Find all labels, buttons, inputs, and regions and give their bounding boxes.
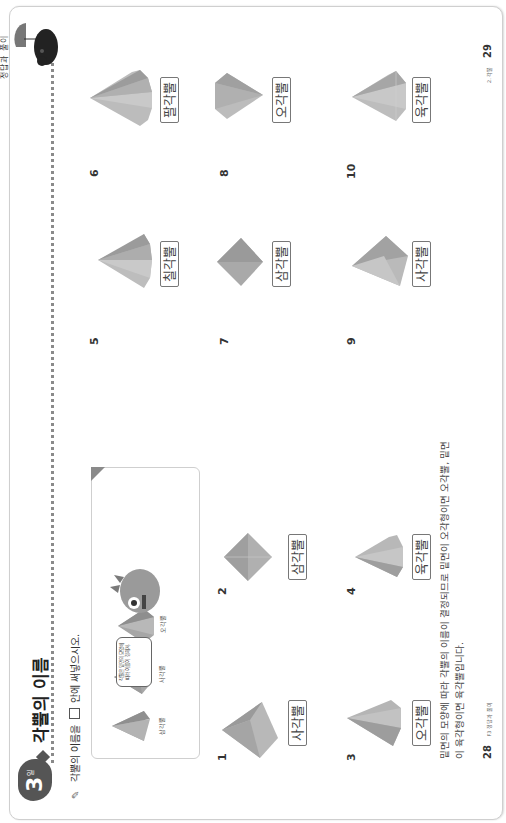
day-badge: 3 일 [18, 759, 52, 801]
explanation-line: 이 육각형이면 육각뿔입니다. [452, 119, 467, 759]
workbook-spread: 정답과 풀이 3 일 각뿔의 이름 ✎ 각뿔의 이름을 안에 써넣으시오. 삼각… [0, 0, 506, 823]
answer-box: 사각뿔 [288, 700, 307, 746]
explanation-text: 밑면의 모양에 따라 각뿔의 이름이 결정되므로 밑면이 오각형이면 오각뿔, … [437, 119, 467, 759]
triangular-pyramid-figure [215, 236, 265, 288]
example-label: 사각뿔 [157, 665, 166, 683]
question-number: 10 [345, 164, 358, 179]
instruction-text-before: 각뿔의 이름을 [70, 725, 81, 782]
footer-left: 28 F3 정답과 풀이 [482, 702, 493, 759]
question-number: 2 [216, 587, 229, 595]
answer-box: 사각뿔 [412, 241, 431, 287]
answer-box: 칠각뿔 [160, 241, 179, 287]
triangular-pyramid-example [110, 707, 154, 745]
question-number: 7 [218, 337, 231, 345]
edge-text: 정답과 풀이 [0, 35, 9, 79]
footer-right-label: 2. 각뿔 [486, 67, 492, 83]
hexagonal-pyramid-figure [350, 67, 410, 125]
footer-left-label: F3 정답과 풀이 [486, 702, 492, 736]
explanation-line: 밑면의 모양에 따라 각뿔의 이름이 결정되므로 밑면이 오각형이면 오각뿔, … [437, 119, 452, 759]
pentagonal-pyramid-figure [213, 69, 265, 123]
dotted-divider [51, 63, 54, 763]
answer-box: 오각뿔 [412, 700, 431, 746]
day-number: 3 [22, 777, 47, 792]
square-pyramid-figure [350, 232, 410, 288]
question-number: 9 [345, 337, 358, 345]
page-frame [9, 6, 503, 820]
question-number: 8 [218, 169, 231, 177]
day-label: 일 [25, 770, 35, 776]
heptagonal-pyramid-figure [96, 232, 152, 290]
answer-box: 육각뿔 [412, 534, 431, 580]
instruction-text-after: 안에 써넣으시오. [70, 634, 81, 703]
answer-box: 삼각뿔 [272, 241, 291, 287]
pentagonal-pyramid-figure [345, 698, 403, 748]
answer-box: 삼각뿔 [288, 534, 307, 580]
umbrella-mascot-icon [12, 19, 60, 75]
answer-box: 육각뿔 [412, 77, 431, 123]
answer-box-icon [69, 708, 80, 719]
footer-right: 2. 각뿔 29 [482, 44, 493, 83]
octagonal-pyramid-figure [88, 68, 154, 128]
pencil-icon: ✎ [70, 785, 81, 799]
page-number-right: 29 [482, 44, 493, 58]
hexagonal-pyramid-figure [353, 531, 405, 581]
example-label: 삼각뿔 [157, 717, 166, 735]
square-pyramid-figure [220, 700, 280, 760]
page-title: 각뿔의 이름 [27, 657, 52, 743]
answer-box: 팔각뿔 [160, 77, 179, 123]
speech-bubble: 각뿔은 밑면의 모양에 따라 이름이 정해져. [116, 637, 152, 687]
question-number: 6 [88, 169, 101, 177]
dragon-mascot-icon [108, 563, 168, 623]
page-number-left: 28 [482, 745, 493, 759]
question-number: 3 [345, 753, 358, 761]
question-number: 5 [88, 337, 101, 345]
question-number: 4 [345, 587, 358, 595]
answer-box: 오각뿔 [272, 77, 291, 123]
triangular-pyramid-figure [222, 531, 274, 583]
instruction: ✎ 각뿔의 이름을 안에 써넣으시오. [67, 634, 82, 799]
page-fold-icon [91, 467, 105, 481]
